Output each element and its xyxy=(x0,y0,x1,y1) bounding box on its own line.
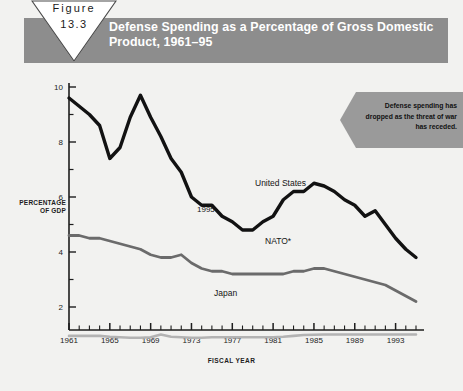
figure-title: Defense Spending as a Percentage of Gros… xyxy=(109,20,439,49)
series-line-japan xyxy=(69,335,416,338)
x-tick-label: 1985 xyxy=(305,336,323,345)
x-tick-label: 1989 xyxy=(346,336,364,345)
series-label-nato: NATO* xyxy=(265,236,291,246)
series-line-nato xyxy=(69,236,416,302)
y-tick-label: 2 xyxy=(59,303,64,312)
plot-area: 2468101961196519691973197719811985198919… xyxy=(0,66,463,366)
series-label-japan: Japan xyxy=(214,288,237,298)
y-tick-label: 8 xyxy=(59,138,64,147)
x-tick-label: 1993 xyxy=(387,336,405,345)
figure-container: Defense Spending as a Percentage of Gros… xyxy=(0,0,463,391)
figure-badge-number: 13.3 xyxy=(34,18,114,30)
series-label-united-states: United States xyxy=(255,178,306,188)
y-tick-label: 10 xyxy=(54,83,63,92)
series-line-united-states xyxy=(69,95,416,257)
y-axis-title-line1: PERCENTAGE OF GDP xyxy=(19,199,66,214)
y-axis-title: PERCENTAGE OF GDP xyxy=(8,199,66,215)
x-tick-label: 1961 xyxy=(60,336,78,345)
figure-badge-label: Figure xyxy=(34,2,114,14)
annotation-1995: 1995 xyxy=(197,205,215,214)
x-axis-title: FISCAL YEAR xyxy=(0,357,463,364)
y-tick-label: 4 xyxy=(59,248,64,257)
line-chart-canvas: 2468101961196519691973197719811985198919… xyxy=(0,66,463,366)
